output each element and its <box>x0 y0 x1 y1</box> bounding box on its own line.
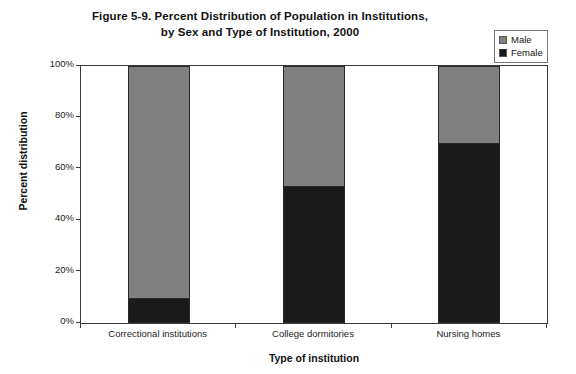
legend-item-male: Male <box>499 34 544 46</box>
bar-stack[interactable] <box>438 66 500 323</box>
x-axis-title: Type of institution <box>80 352 548 364</box>
legend-swatch-male-icon <box>499 36 507 44</box>
legend-swatch-female-icon <box>499 49 507 57</box>
bar-group[interactable] <box>128 66 190 323</box>
y-axis-tick-label: 40% <box>55 212 74 223</box>
x-axis-tick-mark <box>546 323 547 328</box>
bar-segment-female[interactable] <box>284 186 344 322</box>
chart-title-line-1: Figure 5-9. Percent Distribution of Popu… <box>0 8 520 24</box>
y-axis-tick-label: 80% <box>55 109 74 120</box>
bar-stack[interactable] <box>128 66 190 323</box>
x-axis-category-label: Correctional institutions <box>80 328 235 340</box>
bar-segment-female[interactable] <box>439 143 499 322</box>
y-axis-tick-label: 100% <box>50 58 74 69</box>
y-axis-title: Percent distribution <box>17 86 29 236</box>
bar-segment-male[interactable] <box>129 67 189 298</box>
chart-legend: Male Female <box>494 30 548 63</box>
bar-stack[interactable] <box>283 66 345 323</box>
y-axis-tick-label: 20% <box>55 264 74 275</box>
legend-item-female: Female <box>499 47 544 59</box>
y-axis-tick-label: 0% <box>60 315 74 326</box>
chart-title-line-2: by Sex and Type of Institution, 2000 <box>0 24 520 40</box>
x-axis-category-label: Nursing homes <box>391 328 546 340</box>
bars-layer <box>81 66 547 323</box>
legend-label-female: Female <box>511 48 543 58</box>
x-axis-tick-mark <box>80 323 81 328</box>
chart-title: Figure 5-9. Percent Distribution of Popu… <box>0 8 520 40</box>
bar-segment-male[interactable] <box>284 67 344 186</box>
plot-area <box>80 65 548 324</box>
bar-group[interactable] <box>438 66 500 323</box>
legend-label-male: Male <box>511 35 532 45</box>
y-axis-tick-label: 60% <box>55 161 74 172</box>
x-axis-tick-mark <box>235 323 236 328</box>
bar-segment-male[interactable] <box>439 67 499 143</box>
bar-segment-female[interactable] <box>129 298 189 322</box>
x-axis-tick-mark <box>391 323 392 328</box>
x-axis-category-label: College dormitories <box>235 328 390 340</box>
bar-group[interactable] <box>283 66 345 323</box>
